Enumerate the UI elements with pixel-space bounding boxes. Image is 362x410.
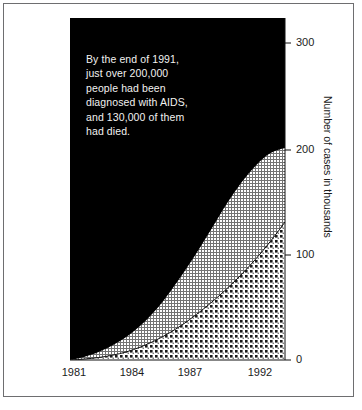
ytick-label-200: 200 — [296, 143, 314, 155]
chart-area: By the end of 1991, just over 200,000 pe… — [0, 0, 362, 410]
ytick-label-100: 100 — [296, 248, 314, 260]
xtick-label-1992: 1992 — [240, 366, 280, 378]
xtick-label-1984: 1984 — [112, 366, 152, 378]
chart-plot — [0, 0, 362, 410]
xtick-label-1981: 1981 — [54, 366, 94, 378]
figure-container: By the end of 1991, just over 200,000 pe… — [0, 0, 362, 410]
ytick-label-0: 0 — [296, 353, 302, 365]
y-axis-label: Number of cases in thousands — [322, 96, 334, 286]
ytick-label-300: 300 — [296, 36, 314, 48]
xtick-label-1987: 1987 — [170, 366, 210, 378]
